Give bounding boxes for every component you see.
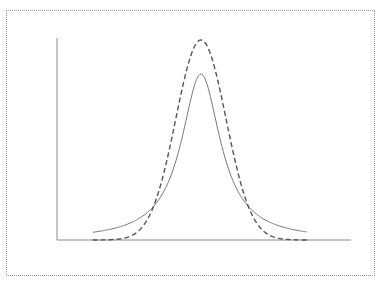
- series-layer: [93, 40, 307, 240]
- chart-plot: [0, 0, 381, 282]
- solid-curve: [93, 74, 307, 232]
- dashed-curve: [93, 40, 307, 240]
